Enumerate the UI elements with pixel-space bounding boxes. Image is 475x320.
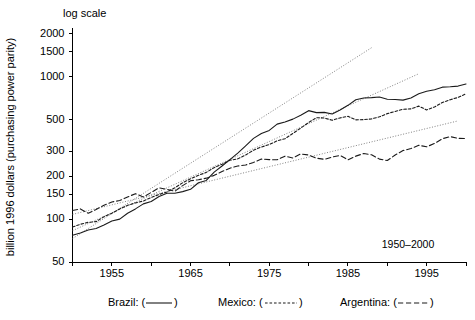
- data-series-group: [73, 84, 467, 235]
- y-tick-label: 200: [46, 169, 64, 181]
- y-axis-title: billion 1996 dollars (purchasing power p…: [4, 38, 16, 256]
- legend-label-argentina: Argentina: (: [340, 296, 397, 308]
- y-axis-ticks: 50100150200300500100015002000: [40, 27, 72, 267]
- chart-legend: Brazil: ( ) Mexico: ( ) Argentina: ( ): [108, 296, 434, 308]
- legend-paren-argentina: ): [430, 296, 434, 308]
- series-line-mexico: [73, 94, 467, 227]
- chart-title: log scale: [63, 7, 106, 19]
- x-axis-ticks: 19551965197519851995: [73, 262, 467, 279]
- chart-canvas: log scale billion 1996 dollars (purchasi…: [0, 0, 475, 320]
- y-tick-label: 150: [46, 187, 64, 199]
- chart-svg: log scale billion 1996 dollars (purchasi…: [0, 0, 475, 320]
- x-tick-label: 1995: [414, 267, 438, 279]
- legend-label-brazil: Brazil: (: [108, 296, 146, 308]
- trend-lines-group: [73, 48, 459, 239]
- chart-figure: log scale billion 1996 dollars (purchasi…: [0, 0, 475, 320]
- legend-label-mexico: Mexico: (: [218, 296, 263, 308]
- y-tick-label: 50: [52, 255, 64, 267]
- y-tick-label: 1000: [40, 70, 64, 82]
- x-tick-label: 1955: [100, 267, 124, 279]
- legend-paren-brazil: ): [174, 296, 178, 308]
- range-annotation: 1950–2000: [382, 238, 435, 250]
- x-tick-label: 1965: [178, 267, 202, 279]
- y-tick-label: 100: [46, 212, 64, 224]
- legend-paren-mexico: ): [299, 296, 303, 308]
- y-tick-label: 2000: [40, 27, 64, 39]
- x-tick-label: 1975: [257, 267, 281, 279]
- x-tick-label: 1985: [336, 267, 360, 279]
- trend-line: [73, 121, 459, 215]
- y-tick-label: 300: [46, 144, 64, 156]
- y-tick-label: 500: [46, 113, 64, 125]
- series-line-argentina: [73, 137, 467, 214]
- y-tick-label: 1500: [40, 45, 64, 57]
